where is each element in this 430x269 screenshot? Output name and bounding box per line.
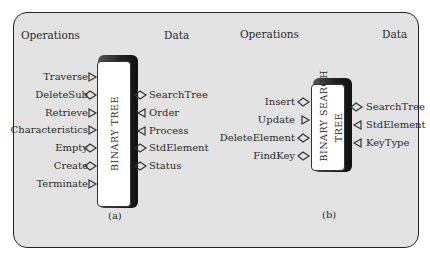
caption-a: (a) (108, 210, 122, 222)
triangle-icon (89, 126, 96, 134)
diamond-icon (135, 144, 146, 152)
data-keytype: KeyType (366, 137, 409, 149)
data-status: Status (149, 160, 181, 172)
diamond-icon (85, 144, 96, 152)
data-searchtree: SearchTree (149, 89, 208, 101)
op-deleteelement: DeleteElement (220, 132, 295, 144)
diamond-icon (298, 98, 309, 106)
op-traverse: Traverse (43, 71, 88, 83)
data-stdelement: StdElement (149, 142, 209, 154)
diamond-icon (135, 91, 146, 99)
op-findkey: FindKey (253, 150, 295, 162)
data-header: Data (382, 28, 407, 40)
triangle-left-icon (354, 121, 361, 129)
data-connectors (134, 88, 148, 168)
data-process: Process (149, 125, 188, 137)
data-stdelement: StdElement (366, 119, 426, 131)
data-header: Data (164, 29, 189, 41)
op-terminate: Terminate (36, 178, 88, 190)
diamond-icon (298, 134, 309, 142)
triangle-left-icon (138, 127, 145, 135)
triangle-icon (89, 109, 96, 117)
triangle-icon (89, 73, 96, 81)
triangle-left-icon (354, 139, 361, 147)
operation-connectors (297, 95, 311, 165)
op-deletesub: DeleteSub (35, 89, 88, 101)
operations-header: Operations (240, 28, 299, 40)
op-characteristics: Characteristics (11, 124, 88, 136)
module-label-line2: TREE (333, 93, 344, 163)
data-order: Order (149, 107, 179, 119)
op-insert: Insert (265, 96, 295, 108)
op-create: Create (54, 160, 88, 172)
op-retrieve: Retrieve (45, 107, 88, 119)
op-update: Update (258, 114, 295, 126)
diamond-icon (298, 152, 309, 160)
module-label-line1: BINARY SEARCH (318, 92, 329, 162)
caption-b: (b) (322, 209, 336, 221)
operation-connectors (84, 70, 98, 190)
operations-header: Operations (21, 29, 80, 41)
data-searchtree: SearchTree (366, 101, 425, 113)
diamond-icon (85, 91, 96, 99)
triangle-left-icon (138, 109, 145, 117)
data-connectors (350, 100, 364, 150)
triangle-icon (302, 116, 309, 124)
triangle-icon (89, 180, 96, 188)
diamond-icon (85, 162, 96, 170)
module-label: BINARY TREE (109, 84, 120, 184)
diamond-icon (351, 103, 362, 111)
